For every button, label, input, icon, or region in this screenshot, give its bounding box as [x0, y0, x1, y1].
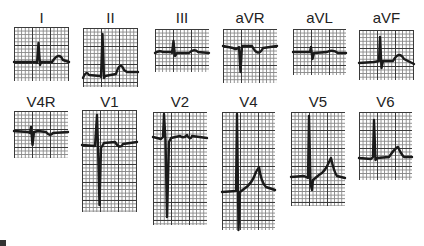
lead-aVR: aVR	[223, 8, 277, 83]
ecg-strip	[153, 112, 207, 225]
lead-label: aVR	[223, 10, 277, 25]
lead-V1: V1	[82, 92, 137, 212]
ecg-trace	[83, 28, 138, 87]
lead-V4: V4	[222, 92, 275, 230]
lead-aVF: aVF	[359, 8, 414, 80]
lead-label: V4	[222, 94, 275, 109]
ecg-trace	[153, 112, 207, 225]
ecg-strip	[14, 27, 69, 81]
ecg-strip	[359, 30, 414, 80]
ecg-trace	[222, 112, 275, 230]
lead-III: III	[155, 8, 209, 72]
lead-label: V6	[359, 94, 412, 109]
lead-label: III	[155, 10, 209, 25]
lead-V5: V5	[291, 92, 345, 206]
ecg-strip	[155, 29, 209, 72]
lead-label: aVL	[293, 10, 346, 25]
lead-label: V2	[153, 94, 207, 109]
lead-label: aVF	[359, 10, 414, 25]
ecg-strip	[293, 29, 346, 75]
lead-V6: V6	[359, 92, 412, 180]
ecg-trace	[291, 112, 345, 206]
ecg-strip	[291, 112, 345, 206]
lead-label: V4R	[14, 94, 68, 109]
lead-label: V1	[82, 94, 137, 109]
ecg-strip	[222, 112, 275, 230]
ecg-trace	[359, 112, 412, 180]
ecg-trace	[14, 27, 69, 81]
lead-II: II	[83, 8, 138, 87]
ecg-trace	[223, 29, 277, 83]
ecg-strip	[82, 110, 137, 212]
lead-V4R: V4R	[14, 92, 68, 158]
lead-label: V5	[291, 94, 345, 109]
ecg-strip	[223, 29, 277, 83]
ecg-trace	[14, 111, 68, 158]
lead-label: II	[83, 10, 138, 25]
ecg-strip	[359, 112, 412, 180]
ecg-trace	[82, 110, 137, 212]
corner-mark	[0, 240, 6, 246]
ecg-strip	[83, 28, 138, 87]
lead-I: I	[14, 8, 69, 81]
ecg-trace	[293, 29, 346, 75]
ecg-trace	[359, 30, 414, 80]
lead-label: I	[14, 10, 69, 25]
lead-V2: V2	[153, 92, 207, 225]
lead-aVL: aVL	[293, 8, 346, 75]
ecg-strip	[14, 111, 68, 158]
ecg-trace	[155, 29, 209, 72]
